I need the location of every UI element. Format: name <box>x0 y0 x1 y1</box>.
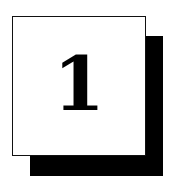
badge-card: 1 <box>12 16 146 156</box>
badge-number: 1 <box>13 47 145 121</box>
